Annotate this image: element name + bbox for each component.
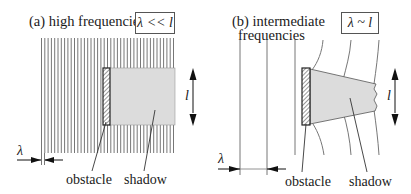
panel-b-length-arrow [392, 68, 399, 126]
panel-b-incoming-wavefronts [240, 40, 295, 175]
panel-a-shadow [109, 68, 175, 125]
panel-a-condition-box: λ << l [135, 12, 175, 34]
panel-a-title: (a) high frequencies [29, 14, 145, 29]
panel-b-wavelength-marker [218, 166, 286, 172]
panel-b-shadow-label: shadow [349, 175, 392, 189]
panel-b-obstacle [302, 68, 310, 125]
panel-a-length-arrow [190, 68, 197, 126]
panel-b-length-symbol: l [387, 89, 391, 103]
panel-b-condition-box: λ ~ l [341, 12, 379, 34]
panel-b-title-line2: frequencies [238, 28, 305, 43]
panel-a [17, 38, 197, 171]
panel-a-obstacle [103, 68, 110, 125]
panel-a-length-symbol: l [185, 89, 189, 103]
panel-b-obstacle-label: obstacle [285, 175, 331, 189]
panel-b-shadow [310, 69, 377, 124]
panel-b-wavelength-symbol: λ [218, 152, 224, 166]
panel-a-shadow-label: shadow [124, 173, 167, 187]
panel-b [218, 40, 399, 175]
panel-b-obstacle-pointer [302, 124, 306, 172]
panel-a-obstacle-label: obstacle [66, 173, 112, 187]
panel-a-wavelength-marker [17, 153, 63, 165]
panel-a-wavelength-symbol: λ [17, 144, 23, 158]
